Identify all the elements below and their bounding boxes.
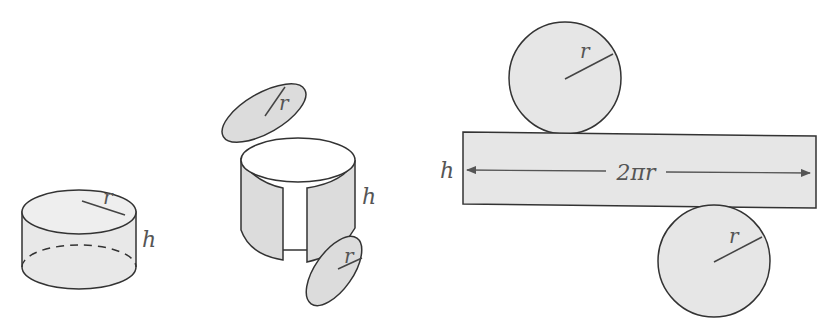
solid-cylinder: r h [22,185,156,289]
unfolding-cylinder: r r h [213,72,376,314]
height-label: h [142,227,156,252]
cylinder-net-diagram: r h r r h r 2πr h r [0,0,837,330]
radius-label: r [103,185,114,209]
bottom-circle [658,205,770,317]
bottom-disk-radius-label: r [344,244,355,268]
net-height-label: h [440,158,454,183]
top-disk-radius-label: r [279,91,290,115]
unfolding-height-label: h [362,184,376,209]
circumference-label: 2πr [616,160,657,185]
top-circle [509,22,621,134]
cylinder-net: r 2πr h r [440,22,816,317]
bottom-circle-radius-label: r [729,224,740,248]
top-circle-radius-label: r [580,39,591,63]
